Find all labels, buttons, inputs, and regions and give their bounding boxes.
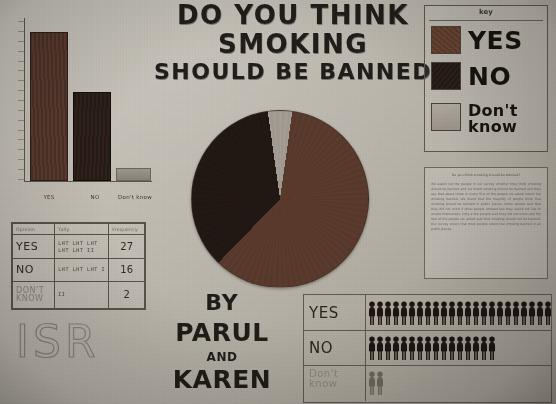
legend-label-no: NO xyxy=(468,62,511,91)
legend-title: key xyxy=(425,8,547,16)
person-icon xyxy=(472,300,480,326)
person-icon xyxy=(368,300,376,326)
person-icon xyxy=(456,300,464,326)
byline-name-2: KAREN xyxy=(152,365,292,394)
person-icon xyxy=(472,335,480,361)
person-icon xyxy=(488,335,496,361)
byline-name-1: PARUL xyxy=(152,318,292,347)
bar-label-dontknow: Don't know xyxy=(116,194,154,200)
school-mark: ISR xyxy=(16,316,99,367)
written-conclusion-body: We asked out the people in our survey wh… xyxy=(431,182,541,232)
person-icon xyxy=(400,300,408,326)
person-icon xyxy=(456,335,464,361)
table-row: YES LHT LHT LHT LHT LHT II 27 xyxy=(13,235,145,259)
person-icon xyxy=(464,300,472,326)
person-icon xyxy=(368,370,376,396)
person-icon xyxy=(440,335,448,361)
person-icon xyxy=(488,300,496,326)
person-icon xyxy=(376,300,384,326)
person-icon xyxy=(448,335,456,361)
bar-yes xyxy=(30,32,68,181)
bar-no xyxy=(73,92,111,181)
person-icon xyxy=(496,300,504,326)
legend-swatch-yes-icon xyxy=(431,26,461,54)
legend-divider xyxy=(429,20,543,21)
pictogram-row-dontknow: Don't know xyxy=(304,365,551,401)
legend-item-yes: YES xyxy=(431,23,543,57)
legend-label-dontknow: Don't know xyxy=(468,103,543,135)
person-icon xyxy=(384,335,392,361)
person-icon xyxy=(544,300,551,326)
pictogram-figures-no xyxy=(366,330,551,365)
pictogram-figures-dontknow xyxy=(366,365,551,401)
byline-and: AND xyxy=(152,350,292,364)
pictogram-label-dontknow: Don't know xyxy=(304,365,366,401)
pictogram-row-no: NO xyxy=(304,330,551,366)
legend-item-no: NO xyxy=(431,59,543,93)
person-icon xyxy=(376,335,384,361)
pictogram-figures-yes xyxy=(366,295,551,330)
table-row: NO LHT LHT LHT I 16 xyxy=(13,259,145,282)
person-icon xyxy=(416,300,424,326)
header-tally: Tally xyxy=(55,224,109,235)
legend-label-yes: YES xyxy=(468,26,523,55)
table-row: DON'T KNOW II 2 xyxy=(13,281,145,308)
legend-item-dontknow: Don't know xyxy=(431,99,543,147)
row-tally-yes: LHT LHT LHT LHT LHT II xyxy=(55,235,109,259)
written-conclusion-heading: Do you think smoking should be banned? xyxy=(431,173,541,178)
person-icon xyxy=(424,335,432,361)
bar-chart-plot-area xyxy=(24,18,152,182)
person-icon xyxy=(480,335,488,361)
table-header-row: Opinion Tally Frequency xyxy=(13,224,145,235)
row-option-no: NO xyxy=(13,259,55,282)
person-icon xyxy=(416,335,424,361)
row-option-dontknow: DON'T KNOW xyxy=(13,281,55,308)
row-freq-no: 16 xyxy=(109,259,145,282)
person-icon xyxy=(392,335,400,361)
bar-dk xyxy=(116,168,151,181)
tally-table: Opinion Tally Frequency YES LHT LHT LHT … xyxy=(11,222,146,310)
pie-chart xyxy=(191,110,369,288)
person-icon xyxy=(424,300,432,326)
pictogram-label-no: NO xyxy=(304,330,366,365)
title-line-1: DO YOU THINK xyxy=(152,2,434,28)
byline: BY PARUL AND KAREN xyxy=(152,290,292,394)
legend-swatch-no-icon xyxy=(431,62,461,90)
person-icon xyxy=(520,300,528,326)
person-icon xyxy=(512,300,520,326)
legend-swatch-dontknow-icon xyxy=(431,103,461,131)
written-conclusion: Do you think smoking should be banned? W… xyxy=(424,167,548,279)
person-icon xyxy=(480,300,488,326)
row-option-yes: YES xyxy=(13,235,55,259)
person-icon xyxy=(464,335,472,361)
person-icon xyxy=(432,335,440,361)
page-title: DO YOU THINK SMOKING SHOULD BE BANNED xyxy=(152,2,434,83)
pictogram-row-yes: YES xyxy=(304,295,551,331)
person-icon xyxy=(528,300,536,326)
row-tally-dontknow: II xyxy=(55,281,109,308)
pie-texture-overlay xyxy=(192,111,368,287)
byline-by: BY xyxy=(152,290,292,315)
header-frequency: Frequency xyxy=(109,224,145,235)
person-icon xyxy=(368,335,376,361)
person-icon xyxy=(536,300,544,326)
person-icon xyxy=(448,300,456,326)
person-icon xyxy=(504,300,512,326)
person-icon xyxy=(432,300,440,326)
bar-chart: YES NO Don't know xyxy=(6,14,156,204)
person-icon xyxy=(392,300,400,326)
bar-label-yes: YES xyxy=(28,194,70,200)
header-opinion: Opinion xyxy=(13,224,55,235)
row-tally-no: LHT LHT LHT I xyxy=(55,259,109,282)
person-icon xyxy=(400,335,408,361)
chart-legend: key YES NO Don't know xyxy=(424,5,548,152)
pictogram-table: YES NO Don't know xyxy=(303,294,552,403)
person-icon xyxy=(408,335,416,361)
person-icon xyxy=(384,300,392,326)
poster-canvas: YES NO Don't know Opinion Tally Frequenc… xyxy=(0,0,556,404)
pictogram-label-yes: YES xyxy=(304,295,366,330)
title-line-2: SMOKING xyxy=(152,31,434,57)
person-icon xyxy=(440,300,448,326)
row-freq-dontknow: 2 xyxy=(109,281,145,308)
title-line-3: SHOULD BE BANNED xyxy=(152,61,434,83)
